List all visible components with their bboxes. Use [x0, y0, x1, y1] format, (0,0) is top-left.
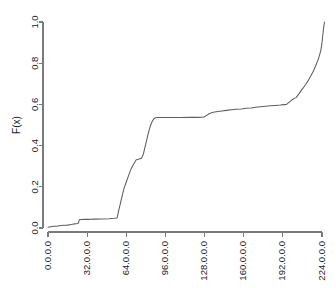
x-axis-tick-label: 160.0.0.0	[237, 241, 248, 281]
x-axis: 0.0.0.032.0.0.064.0.0.096.0.0.0128.0.0.0…	[42, 232, 327, 281]
y-axis-tick-label: 0.4	[29, 139, 40, 152]
y-axis-tick-label: 0.2	[29, 180, 40, 193]
ecdf-chart: 0.00.20.40.60.81.0 0.0.0.032.0.0.064.0.0…	[0, 0, 336, 288]
x-axis-tick-label: 192.0.0.0	[276, 241, 287, 281]
y-axis-tick-label: 1.0	[29, 15, 40, 28]
x-axis-tick-label: 128.0.0.0	[198, 241, 209, 281]
y-axis-tick-label: 0.8	[29, 57, 40, 70]
x-axis-tick-label: 64.0.0.0	[120, 241, 131, 275]
x-axis-tick-label: 96.0.0.0	[159, 241, 170, 275]
x-axis-tick-label: 224.0.0.0	[316, 241, 327, 281]
ecdf-line	[48, 22, 324, 227]
y-axis-title-group: F(x)	[11, 116, 22, 134]
y-axis-tick-label: 0.6	[29, 98, 40, 111]
x-axis-tick-label: 32.0.0.0	[81, 241, 92, 275]
x-axis-tick-label: 0.0.0.0	[42, 241, 53, 270]
y-axis-title: F(x)	[11, 116, 22, 134]
y-axis: 0.00.20.40.60.81.0	[29, 15, 43, 234]
y-axis-tick-label: 0.0	[29, 221, 40, 234]
data-series-group	[48, 22, 324, 227]
plot-canvas: 0.00.20.40.60.81.0 0.0.0.032.0.0.064.0.0…	[0, 0, 336, 288]
